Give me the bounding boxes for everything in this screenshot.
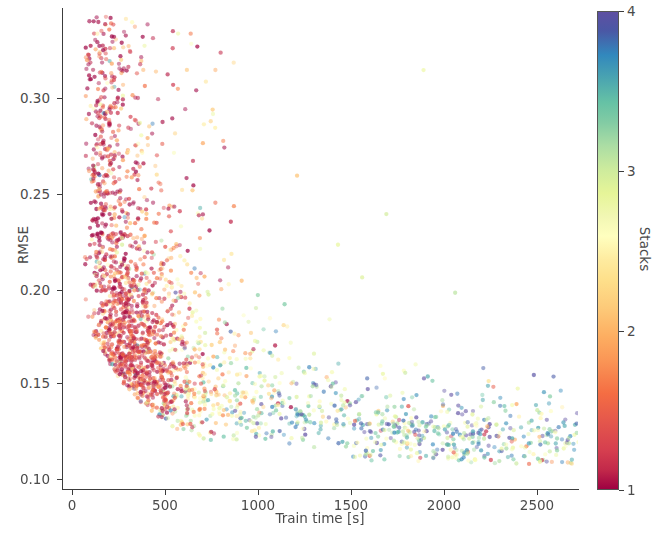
colorbar-tick-label: 2	[627, 323, 636, 339]
colorbar-label: Stacks	[637, 227, 653, 271]
y-tick-mark	[57, 194, 62, 195]
y-tick-label: 0.30	[20, 90, 50, 106]
x-tick-label: 1000	[241, 497, 275, 513]
x-tick-label: 0	[68, 497, 77, 513]
colorbar-tick-mark	[619, 11, 624, 12]
x-tick-mark	[72, 490, 73, 495]
colorbar-gradient	[597, 11, 619, 490]
x-tick-mark	[165, 490, 166, 495]
colorbar-tick-label: 3	[627, 163, 636, 179]
y-tick-label: 0.15	[20, 375, 50, 391]
x-tick-label: 2500	[520, 497, 554, 513]
scatter-plot-area	[62, 8, 578, 489]
x-tick-mark	[444, 490, 445, 495]
y-tick-mark	[57, 290, 62, 291]
scatter-points-layer	[62, 8, 578, 489]
colorbar-tick-mark	[619, 331, 624, 332]
x-tick-mark	[258, 490, 259, 495]
y-tick-mark	[57, 98, 62, 99]
x-tick-mark	[351, 490, 352, 495]
x-tick-mark	[537, 490, 538, 495]
colorbar-tick-mark	[619, 171, 624, 172]
y-tick-mark	[57, 383, 62, 384]
x-tick-label: 2000	[427, 497, 461, 513]
figure-canvas: 0.10 0.15 0.20 0.25 0.30 0 500 1000 1500…	[0, 0, 662, 538]
colorbar-tick-mark	[619, 490, 624, 491]
x-axis-spine	[62, 489, 579, 490]
colorbar-tick-label: 1	[627, 482, 636, 498]
colorbar	[597, 11, 619, 490]
x-tick-label: 500	[152, 497, 178, 513]
x-axis-label: Train time [s]	[275, 510, 364, 526]
y-axis-spine	[62, 8, 63, 490]
y-tick-label: 0.25	[20, 186, 50, 202]
y-tick-label: 0.20	[20, 282, 50, 298]
y-tick-mark	[57, 479, 62, 480]
y-tick-label: 0.10	[20, 471, 50, 487]
colorbar-tick-label: 4	[627, 3, 636, 19]
y-axis-label: RMSE	[15, 226, 31, 264]
